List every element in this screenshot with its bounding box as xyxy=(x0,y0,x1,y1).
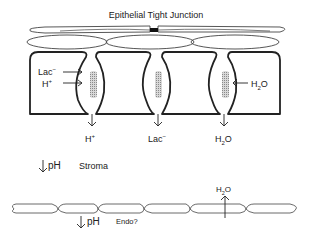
outflow-arrows xyxy=(88,114,228,126)
endo-water-label: H2O xyxy=(216,185,231,196)
stroma-ph-label: pH xyxy=(48,160,61,171)
wing-cell-layer xyxy=(27,35,279,49)
endothelium-layer xyxy=(12,204,296,213)
lac-outflow-label: Lac− xyxy=(148,133,167,144)
title-label: Epithelial Tight Junction xyxy=(109,10,204,20)
stroma-label: Stroma xyxy=(79,161,108,171)
endo-label: Endo? xyxy=(116,217,138,226)
stroma-ph-indicator: pH Stroma xyxy=(39,160,108,172)
pump-region-1 xyxy=(90,71,97,98)
h-outflow-label: H+ xyxy=(85,133,96,144)
superficial-cell-layer xyxy=(30,26,285,33)
endo-ph-label: pH xyxy=(87,216,100,227)
tight-junction-marker xyxy=(150,28,158,32)
endo-ph-indicator: pH Endo? xyxy=(77,216,138,228)
pump-region-2 xyxy=(155,71,162,98)
basal-cell-3 xyxy=(162,52,220,114)
water-outflow-label: H2O xyxy=(215,134,232,146)
h-influx-label: H+ xyxy=(42,78,53,89)
epithelium-diagram: Epithelial Tight Junction Lac− xyxy=(0,0,309,243)
lac-influx-label: Lac− xyxy=(38,66,57,77)
water-influx-label: H2O xyxy=(251,79,268,91)
pump-region-3 xyxy=(222,71,229,98)
basal-cell-2 xyxy=(96,52,154,114)
